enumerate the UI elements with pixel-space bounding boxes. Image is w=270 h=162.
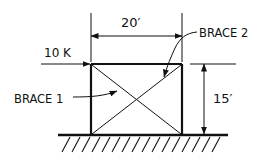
brace-2-callout: BRACE 2 [164,26,248,77]
brace-1-label: BRACE 1 [14,92,63,106]
braced-frame-diagram: 20′ 15′ 10 K BRACE 1 BRACE 2 [0,0,270,162]
lateral-load: 10 K [41,46,90,64]
brace-2-leader [164,32,197,77]
width-dimension-label: 20′ [121,15,141,30]
width-dimension: 20′ [91,13,182,62]
brace-1-leader [73,91,117,97]
frame [91,64,182,135]
height-dimension-label: 15′ [213,91,233,106]
ground [58,135,228,152]
brace-2-label: BRACE 2 [199,26,248,40]
ground-hatching [62,137,220,152]
load-label: 10 K [44,46,72,60]
height-dimension: 15′ [190,64,236,134]
brace-1-callout: BRACE 1 [14,91,117,106]
